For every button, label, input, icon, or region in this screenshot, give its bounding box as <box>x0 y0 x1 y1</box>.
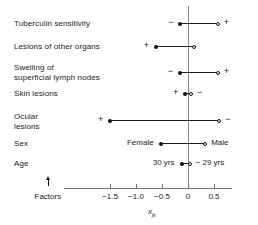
row-left-label-1: + <box>144 41 149 50</box>
row-right-label-4: − <box>225 115 230 124</box>
row-left-label-2: − <box>168 67 173 76</box>
x-axis-tick-0 <box>110 184 111 188</box>
row-label-3: Skin lesions <box>14 89 134 99</box>
row-open-marker-2 <box>216 71 220 75</box>
row-left-label-4: + <box>98 115 103 124</box>
row-open-marker-6 <box>188 162 192 166</box>
row-connector-5 <box>161 143 205 144</box>
factors-axis-caption: Factors <box>35 193 62 201</box>
row-right-label-2: + <box>224 67 229 76</box>
row-left-label-0: − <box>168 18 173 27</box>
row-connector-1 <box>156 46 194 47</box>
row-filled-marker-3 <box>183 92 187 96</box>
row-open-marker-1 <box>192 45 196 49</box>
row-filled-marker-2 <box>178 71 182 75</box>
row-open-marker-4 <box>217 119 221 123</box>
dot-plot-figure: Tuberculin sensitivity−+Lesions of other… <box>0 0 258 225</box>
row-left-label-3: + <box>173 88 178 97</box>
row-label-5: Sex <box>14 139 134 149</box>
row-filled-marker-1 <box>154 45 158 49</box>
row-right-label-3: − <box>197 88 202 97</box>
x-axis-tick-2 <box>162 184 163 188</box>
x-axis-title: xjk <box>148 208 156 219</box>
x-axis-tick-3 <box>188 184 189 188</box>
row-label-0: Tuberculin sensitivity <box>14 19 134 29</box>
row-right-label-5: Male <box>211 139 228 147</box>
row-left-label-5: Female <box>127 139 154 147</box>
row-right-label-6: − 29 yrs <box>196 159 225 167</box>
row-open-marker-3 <box>189 92 193 96</box>
row-label-1: Lesions of other organs <box>14 42 134 52</box>
row-connector-2 <box>180 72 218 73</box>
row-filled-marker-4 <box>108 119 112 123</box>
x-axis-title-subscript: jk <box>152 212 156 218</box>
row-open-marker-5 <box>203 142 207 146</box>
row-label-6: Age <box>14 159 134 169</box>
row-filled-marker-5 <box>159 142 163 146</box>
row-filled-marker-0 <box>178 22 182 26</box>
x-axis-tick-4 <box>214 184 215 188</box>
factors-up-arrow-icon <box>45 176 52 187</box>
row-filled-marker-6 <box>180 162 184 166</box>
zero-reference-line <box>188 6 189 188</box>
x-axis-tick-label-4: 0.5 <box>194 193 234 201</box>
row-connector-4 <box>110 120 219 121</box>
row-connector-0 <box>180 23 217 24</box>
row-open-marker-0 <box>216 22 220 26</box>
plot-area: Tuberculin sensitivity−+Lesions of other… <box>0 0 258 225</box>
row-label-4: Ocular lesions <box>14 112 134 131</box>
row-label-2: Swelling of superficial lymph nodes <box>14 63 134 82</box>
row-left-label-6: 30 yrs <box>153 159 175 167</box>
x-axis-tick-1 <box>136 184 137 188</box>
x-axis-line <box>64 188 232 189</box>
row-right-label-0: + <box>224 18 229 27</box>
